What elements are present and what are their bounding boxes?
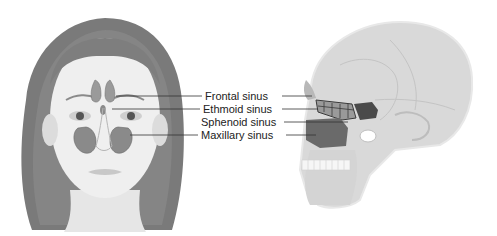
sinus-diagram: Frontal sinus Ethmoid sinus Sphenoid sin… [0, 0, 497, 236]
label-sphenoid-sinus: Sphenoid sinus [201, 116, 276, 128]
label-ethmoid-sinus: Ethmoid sinus [203, 103, 272, 115]
skull-illustration [300, 22, 472, 208]
face-illustration [21, 18, 183, 232]
label-frontal-sinus: Frontal sinus [205, 90, 268, 102]
label-maxillary-sinus: Maxillary sinus [201, 129, 273, 141]
